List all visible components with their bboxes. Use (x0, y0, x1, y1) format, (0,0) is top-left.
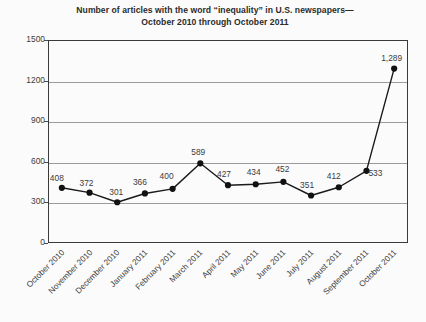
data-point (280, 179, 286, 185)
data-point (170, 186, 176, 192)
y-tick-mark (44, 243, 48, 244)
data-point (197, 160, 203, 166)
data-point-label: 434 (247, 168, 261, 177)
data-point-label: 408 (50, 174, 64, 183)
data-point (114, 199, 120, 205)
data-point-label: 400 (160, 172, 174, 181)
chart-figure: Number of articles with the word “inequa… (0, 0, 426, 322)
data-point-label: 589 (191, 148, 205, 157)
y-tick-label: 600 (5, 157, 45, 166)
data-point (142, 190, 148, 196)
data-point-label: 372 (80, 179, 94, 188)
series-markers (59, 65, 398, 205)
data-point (336, 184, 342, 190)
x-tick-label: April 2011 (200, 248, 232, 280)
data-point-label: 351 (300, 181, 314, 190)
y-tick-label: 1500 (5, 35, 45, 44)
data-point-label: 301 (109, 188, 123, 197)
data-point-label: 452 (275, 165, 289, 174)
y-tick-label: 900 (5, 116, 45, 125)
data-point-label: 533 (368, 169, 382, 178)
chart-title-line-1: Number of articles with the word “inequa… (76, 5, 353, 15)
x-tick-label-text: April 2011 (200, 248, 232, 280)
data-point (253, 181, 259, 187)
y-tick-label: 0 (5, 238, 45, 247)
data-point (225, 182, 231, 188)
chart-title-line-2: October 2010 through October 2011 (30, 17, 400, 29)
chart-title: Number of articles with the word “inequa… (30, 5, 400, 28)
data-point-label: 412 (327, 172, 341, 181)
data-point-label: 1,289 (381, 54, 402, 63)
data-point-label: 366 (133, 178, 147, 187)
y-tick-label: 1200 (5, 76, 45, 85)
data-point (59, 185, 65, 191)
data-point (391, 65, 397, 71)
data-series (48, 40, 408, 243)
data-point-label: 427 (217, 170, 231, 179)
y-tick-label: 300 (5, 197, 45, 206)
data-point (308, 192, 314, 198)
data-point (86, 190, 92, 196)
